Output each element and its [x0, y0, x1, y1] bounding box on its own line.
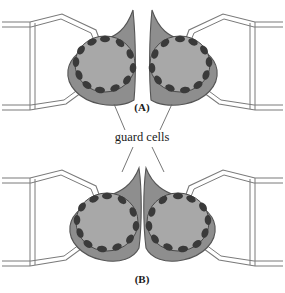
panel-a-label: (A) [134, 101, 150, 114]
panel-b: (B) [2, 168, 283, 286]
panel-b-label: (B) [135, 273, 150, 286]
panel-a: (A) [2, 10, 283, 114]
guard-cells-callout-label: guard cells [115, 130, 170, 144]
stomata-figure: (A) guard cells [0, 0, 285, 293]
callout-leader-lines-down [122, 147, 164, 172]
stomata-diagram-svg: (A) guard cells [0, 0, 285, 293]
